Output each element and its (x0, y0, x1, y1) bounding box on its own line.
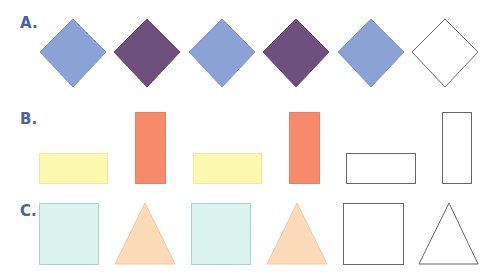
teal-square (192, 204, 251, 265)
peach-triangle (115, 203, 175, 264)
blue-diamond (338, 19, 404, 87)
blank-vertical-rectangle (443, 113, 472, 184)
row-b-shapes (40, 113, 472, 184)
blank-triangle (419, 203, 478, 264)
red-vertical-rectangle (290, 113, 320, 184)
blue-diamond (40, 19, 106, 87)
yellow-horizontal-rectangle (194, 154, 262, 184)
pattern-diagram (0, 0, 500, 279)
blank-square (344, 204, 404, 265)
red-vertical-rectangle (136, 113, 166, 184)
purple-diamond (114, 19, 180, 87)
row-a-shapes (40, 19, 478, 87)
blank-diamond (412, 19, 478, 87)
peach-triangle (267, 203, 327, 264)
row-c-shapes (40, 203, 479, 265)
purple-diamond (263, 19, 329, 87)
teal-square (40, 204, 99, 265)
yellow-horizontal-rectangle (40, 154, 108, 184)
blank-horizontal-rectangle (347, 154, 416, 184)
blue-diamond (189, 19, 255, 87)
